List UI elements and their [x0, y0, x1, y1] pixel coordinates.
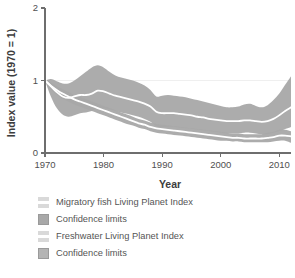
y-axis-ticks: [41, 8, 45, 153]
x-axis-title: Year: [159, 178, 181, 190]
x-tick-label-2000: 2000: [210, 159, 231, 170]
x-tick-label-1970: 1970: [34, 159, 55, 170]
legend-swatch-icon: [38, 231, 49, 242]
legend-item: Confidence limits: [38, 245, 295, 262]
legend-item: Confidence limits: [38, 211, 295, 228]
y-tick-label-0: 0: [33, 147, 38, 158]
x-tick-label-1980: 1980: [93, 159, 114, 170]
y-tick-label-2: 2: [33, 2, 38, 13]
legend-swatch-icon: [38, 197, 49, 208]
confidence-bands: [45, 65, 291, 143]
legend-item: Migratory fish Living Planet Index: [38, 194, 295, 211]
x-tick-label-2010: 2010: [269, 159, 290, 170]
legend-item-label: Freshwater Living Planet Index: [56, 231, 184, 242]
legend-item: Freshwater Living Planet Index: [38, 228, 295, 245]
legend-swatch-icon: [38, 214, 49, 225]
legend-swatch-icon: [38, 248, 49, 259]
y-axis-title: Index value (1970 = 1): [5, 29, 17, 137]
x-axis-ticks: [45, 153, 279, 157]
x-tick-label-1990: 1990: [152, 159, 173, 170]
legend-item-label: Confidence limits: [56, 214, 127, 225]
plot-area-wrapper: 0 1 2 1970 1980 1990 2000 2010 Index val…: [0, 0, 295, 192]
legend-item-label: Confidence limits: [56, 248, 127, 259]
chart-legend: Migratory fish Living Planet Index Confi…: [0, 194, 295, 278]
chart-figure: 0 1 2 1970 1980 1990 2000 2010 Index val…: [0, 0, 295, 278]
line-area-chart: 0 1 2 1970 1980 1990 2000 2010 Index val…: [0, 0, 295, 192]
legend-item-label: Migratory fish Living Planet Index: [56, 197, 193, 208]
y-tick-label-1: 1: [33, 75, 38, 86]
